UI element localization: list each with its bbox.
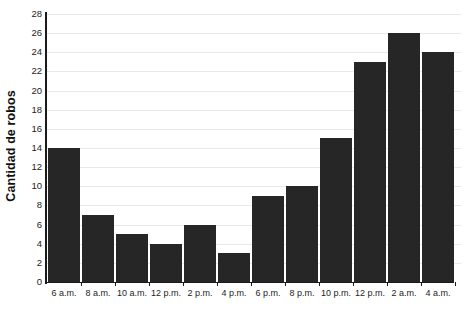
bar-chart-figure: Cantidad de robos 0246810121416182022242…: [0, 0, 474, 309]
y-tick-label-22: 22: [20, 66, 42, 76]
bar: [150, 244, 182, 282]
bar: [388, 33, 420, 282]
y-tick-label-8: 8: [20, 200, 42, 210]
x-tick: [319, 282, 320, 286]
y-tick-label-16: 16: [20, 124, 42, 134]
x-tick: [421, 282, 422, 286]
y-tick-label-6: 6: [20, 220, 42, 230]
bar-slot: [184, 14, 216, 282]
y-tick-label-2: 2: [20, 258, 42, 268]
x-tick: [387, 282, 388, 286]
y-tick-label-24: 24: [20, 47, 42, 57]
bar: [320, 138, 352, 282]
bar-slot: [388, 14, 420, 282]
x-tick: [251, 282, 252, 286]
y-axis-title-label: Cantidad de robos: [4, 90, 18, 201]
x-tick: [115, 282, 116, 286]
bar: [354, 62, 386, 282]
bar-slot: [320, 14, 352, 282]
y-tick-label-14: 14: [20, 143, 42, 153]
y-axis-tick-labels: 0246810121416182022242628: [18, 0, 42, 309]
y-tick-label-12: 12: [20, 162, 42, 172]
y-axis-line: [45, 12, 47, 284]
bar: [48, 148, 80, 282]
y-tick-label-0: 0: [20, 277, 42, 287]
x-tick-label: 4 a.m.: [412, 288, 464, 299]
bar: [218, 253, 250, 282]
bar: [252, 196, 284, 282]
bar: [116, 234, 148, 282]
y-tick-label-28: 28: [20, 9, 42, 19]
x-tick: [217, 282, 218, 286]
y-tick-label-18: 18: [20, 105, 42, 115]
bar-slot: [286, 14, 318, 282]
bar-slot: [252, 14, 284, 282]
bar: [184, 225, 216, 282]
bar-slot: [82, 14, 114, 282]
bar-slot: [48, 14, 80, 282]
x-axis-line: [46, 282, 454, 283]
x-tick: [285, 282, 286, 286]
y-tick-label-10: 10: [20, 181, 42, 191]
x-tick: [81, 282, 82, 286]
x-tick: [455, 282, 456, 286]
x-tick: [183, 282, 184, 286]
bar-slot: [116, 14, 148, 282]
plot-area: [46, 14, 461, 282]
x-tick: [149, 282, 150, 286]
bar: [286, 186, 318, 282]
bar: [422, 52, 454, 282]
bar: [82, 215, 114, 282]
bar-slot: [218, 14, 250, 282]
bar-slot: [150, 14, 182, 282]
y-tick-label-20: 20: [20, 86, 42, 96]
bar-slot: [422, 14, 454, 282]
bar-slot: [354, 14, 386, 282]
y-tick-label-26: 26: [20, 28, 42, 38]
x-tick: [353, 282, 354, 286]
y-tick-label-4: 4: [20, 239, 42, 249]
